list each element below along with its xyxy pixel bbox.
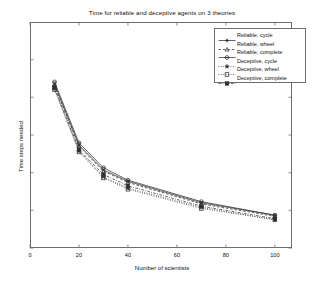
legend-item[interactable]: Reliable, cycle [215,31,305,40]
legend-item[interactable]: Deceptive, wheel [215,65,305,74]
legend-marker-asterisk-icon [217,31,237,40]
legend-marker-circle-plus-icon [217,48,237,57]
legend-item[interactable]: Deceptive, cycle [215,57,305,66]
y-axis-label: Time steps needed [18,121,24,172]
legend-label: Deceptive, cycle [237,57,277,66]
legend-label: Deceptive, complete [237,74,287,83]
legend-marker-square-filled-icon [217,74,237,83]
legend-label: Reliable, cycle [237,31,272,40]
chart-legend: Reliable, cycleReliable, wheelReliable, … [214,28,306,83]
y-axis-ticks [30,60,292,248]
legend-item[interactable]: Deceptive, complete [215,74,305,83]
x-tick-label: 80 [216,252,236,258]
legend-label: Reliable, wheel [237,40,274,49]
legend-label: Reliable, complete [237,48,282,57]
legend-label: Deceptive, wheel [237,65,279,74]
x-axis-label: Number of scientists [0,265,324,271]
series-4 [53,88,277,222]
x-tick-label: 40 [118,252,138,258]
x-tick-label: 60 [167,252,187,258]
x-tick-label: 0 [20,252,40,258]
legend-marker-square-open-icon [217,65,237,74]
chart-figure: Time for reliable and deceptive agents o… [0,0,324,282]
data-series-group [52,80,277,222]
series-3 [52,86,277,221]
series-2 [52,80,276,217]
x-tick-label: 100 [265,252,285,258]
x-tick-label: 20 [69,252,89,258]
legend-item[interactable]: Reliable, complete [215,48,305,57]
legend-item[interactable]: Reliable, wheel [215,40,305,49]
legend-marker-star-icon [217,57,237,66]
legend-marker-triangle-icon [217,40,237,49]
